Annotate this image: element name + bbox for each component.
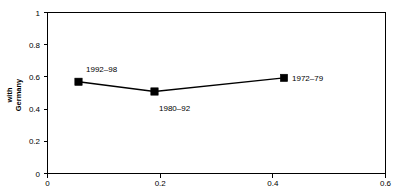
series-line-with-germany: [79, 78, 285, 92]
data-point-labels: 1992–98 1980–92 1972–79: [86, 65, 324, 113]
plot-frame: [48, 13, 386, 174]
chart-container: 0 0.2 0.4 0.6 0.8 1 0 0.2 0.4 0.6 with G…: [0, 0, 396, 190]
data-point-label-1972-79: 1972–79: [292, 74, 324, 83]
y-tick-label-1: 0.2: [29, 137, 41, 146]
data-point-marker-1992-98: [75, 78, 82, 85]
data-point-marker-1980-92: [151, 88, 158, 95]
y-tick-label-2: 0.4: [29, 105, 41, 114]
x-tick-label-0: 0: [45, 179, 50, 188]
data-series: [75, 74, 288, 95]
y-axis-title-line-1: with: [5, 87, 14, 103]
y-tick-label-4: 0.8: [29, 41, 41, 50]
y-axis-title: with Germany: [5, 78, 23, 111]
y-axis-ticks: [44, 13, 48, 174]
x-tick-label-3: 0.6: [380, 179, 392, 188]
y-tick-label-5: 1: [36, 9, 41, 18]
line-chart: 0 0.2 0.4 0.6 0.8 1 0 0.2 0.4 0.6 with G…: [0, 0, 396, 190]
data-point-label-1980-92: 1980–92: [159, 104, 191, 113]
y-axis-title-line-2: Germany: [14, 78, 23, 111]
y-tick-label-0: 0: [36, 170, 41, 179]
x-axis-tick-labels: 0 0.2 0.4 0.6: [45, 179, 391, 188]
y-axis-tick-labels: 0 0.2 0.4 0.6 0.8 1: [29, 9, 41, 179]
data-point-marker-1972-79: [280, 74, 287, 81]
y-tick-label-3: 0.6: [29, 73, 41, 82]
x-tick-label-1: 0.2: [155, 179, 167, 188]
data-point-label-1992-98: 1992–98: [86, 65, 118, 74]
x-tick-label-2: 0.4: [267, 179, 279, 188]
x-axis-ticks: [48, 174, 386, 178]
